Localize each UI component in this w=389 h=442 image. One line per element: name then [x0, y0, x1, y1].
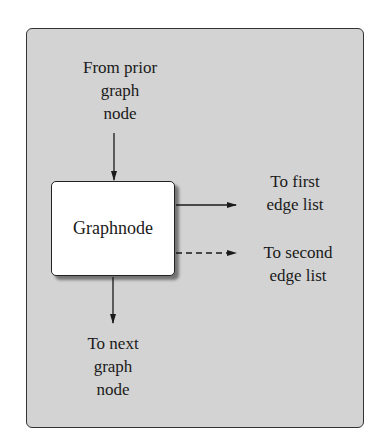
label-line: edge list: [240, 193, 350, 216]
to-next-label: To next graph node: [58, 332, 168, 401]
label-line: edge list: [238, 264, 358, 287]
label-line: node: [58, 378, 168, 401]
label-line: graph: [58, 355, 168, 378]
second-edge-label: To second edge list: [238, 241, 358, 287]
label-line: To next: [58, 332, 168, 355]
label-line: To first: [240, 170, 350, 193]
label-line: From prior: [60, 56, 180, 79]
from-prior-label: From prior graph node: [60, 56, 180, 125]
label-line: graph: [60, 79, 180, 102]
graphnode-label: Graphnode: [73, 218, 153, 239]
label-line: To second: [238, 241, 358, 264]
graphnode-box: Graphnode: [51, 181, 175, 276]
first-edge-label: To first edge list: [240, 170, 350, 216]
label-line: node: [60, 102, 180, 125]
